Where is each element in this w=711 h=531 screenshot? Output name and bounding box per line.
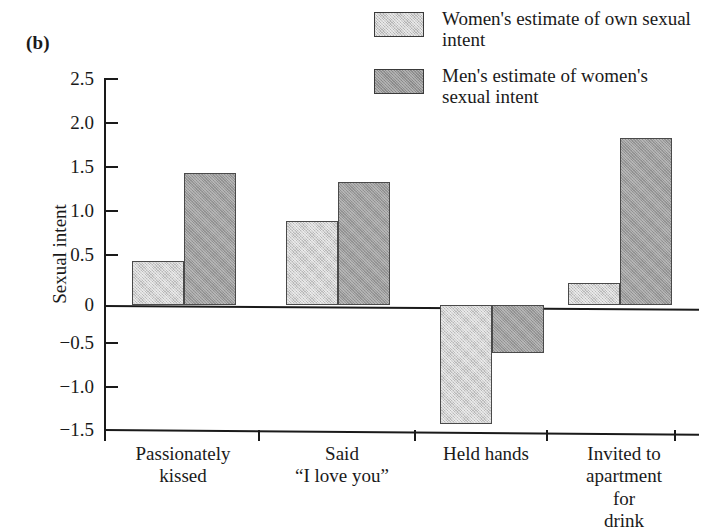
y-tick-label-1.5: 1.5 (70, 156, 94, 178)
y-tick-label-2.5: 2.5 (70, 68, 94, 90)
bar-men-invited-to-apartment (620, 138, 672, 305)
bar-men-held-hands (492, 305, 544, 353)
x-tick-2 (414, 430, 416, 441)
y-tick-label-2.0: 2.0 (70, 112, 94, 134)
y-tick-label-neg1.0: −1.0 (60, 376, 94, 398)
x-label-line-1: Said (295, 443, 389, 465)
x-label-line-2: kissed (136, 465, 231, 487)
x-tick-0 (104, 430, 106, 441)
bar-men-said-i-love-you (338, 182, 390, 305)
y-tick-label-0: 0 (85, 294, 95, 316)
y-tick-label-neg0.5: −0.5 (60, 332, 94, 354)
y-axis-title: Sexual intent (49, 204, 71, 304)
panel-label: (b) (26, 32, 50, 54)
bar-women-invited-to-apartment (568, 283, 620, 305)
x-label-line-3: drink (584, 510, 664, 531)
x-label-passionately-kissed: Passionately kissed (136, 443, 231, 488)
plot-area: Sexual intent 2.5 2.0 1.5 1.0 0.5 0 −0.5 (104, 78, 699, 430)
legend-swatch-women-icon (374, 12, 424, 37)
x-label-line-2: “I love you” (295, 465, 389, 487)
y-tick-label-0.5: 0.5 (70, 244, 94, 266)
bar-women-held-hands (440, 305, 492, 424)
x-label-line-1: Passionately (136, 443, 231, 465)
x-label-held-hands: Held hands (443, 443, 529, 465)
x-label-invited-to-apartment: Invited to apartment for drink (584, 443, 664, 531)
x-label-said-i-love-you: Said “I love you” (295, 443, 389, 488)
x-label-line-1: Invited to (584, 443, 664, 465)
legend-label-women: Women's estimate of own sexual intent (442, 8, 692, 51)
x-axis-labels: Passionately kissed Said “I love you” He… (104, 443, 704, 519)
legend-item-women: Women's estimate of own sexual intent (374, 8, 704, 51)
x-label-line-1: Held hands (443, 443, 529, 465)
x-label-line-2: apartment for (584, 465, 664, 510)
bottom-axis-line (104, 429, 699, 436)
y-tick-label-1.0: 1.0 (70, 200, 94, 222)
bar-group-container (104, 78, 699, 430)
x-tick-1 (258, 430, 260, 441)
x-tick-4 (674, 430, 676, 441)
bar-men-passionately-kissed (184, 173, 236, 305)
x-tick-3 (546, 430, 548, 441)
bar-women-passionately-kissed (132, 261, 184, 305)
bar-women-said-i-love-you (286, 221, 338, 305)
y-tick-label-neg1.5: −1.5 (60, 419, 94, 441)
